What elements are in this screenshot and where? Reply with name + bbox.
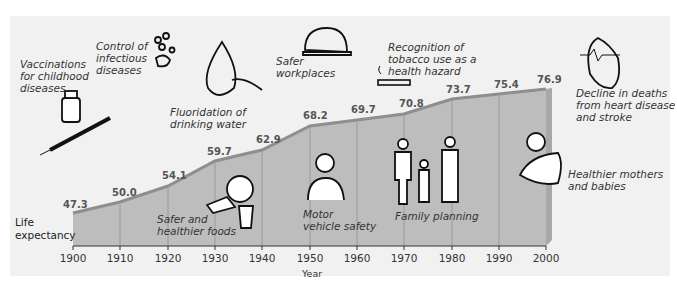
value-label-1990: 75.4	[494, 79, 519, 90]
value-label-1910: 50.0	[112, 187, 137, 198]
y-axis-label: Life expectancy	[15, 216, 76, 242]
annotation-motor-vehicle: Motor vehicle safety	[303, 208, 376, 232]
value-label-1900: 47.3	[63, 199, 88, 210]
x-tick-1920: 1920	[155, 252, 182, 264]
x-tick-1910: 1910	[107, 252, 134, 264]
x-tick-1900: 1900	[60, 252, 87, 264]
annotation-vaccinations: Vaccinations for childhood diseases	[20, 58, 89, 94]
x-tick-1970: 1970	[391, 252, 418, 264]
annotation-mothers-babies: Healthier mothers and babies	[568, 168, 663, 192]
x-tick-1980: 1980	[439, 252, 466, 264]
x-tick-1950: 1950	[297, 252, 324, 264]
x-tick-1940: 1940	[249, 252, 276, 264]
annotation-heart-disease: Decline in deaths from heart disease and…	[576, 87, 675, 123]
value-label-1980: 73.7	[446, 84, 471, 95]
water-drop-icon	[207, 42, 262, 95]
annotation-infectious-diseases: Control of infectious diseases	[96, 40, 148, 76]
value-label-1930: 59.7	[207, 146, 232, 157]
annotation-family-planning: Family planning	[395, 210, 479, 222]
microbe-icon	[155, 33, 175, 66]
heart-icon	[580, 38, 620, 88]
hard-hat-icon	[303, 28, 351, 55]
value-label-1920: 54.1	[162, 170, 187, 181]
x-tick-1990: 1990	[486, 252, 513, 264]
value-label-2000: 76.9	[537, 74, 562, 85]
value-label-1940: 62.9	[256, 134, 281, 145]
value-label-1960: 69.7	[351, 104, 376, 115]
vaccine-icon	[40, 91, 110, 155]
value-label-1970: 70.8	[399, 98, 424, 109]
x-tick-2000: 2000	[533, 252, 560, 264]
annotation-tobacco: Recognition of tobacco use as a health h…	[388, 41, 477, 77]
x-axis-label: Year	[302, 268, 322, 279]
annotation-safer-workplaces: Safer workplaces	[276, 55, 335, 79]
x-axis	[73, 246, 546, 250]
annotation-fluoridation: Fluoridation of drinking water	[170, 106, 246, 130]
value-label-1950: 68.2	[303, 110, 328, 121]
annotation-foods: Safer and healthier foods	[157, 213, 236, 237]
x-tick-1960: 1960	[344, 252, 371, 264]
x-tick-1930: 1930	[202, 252, 229, 264]
